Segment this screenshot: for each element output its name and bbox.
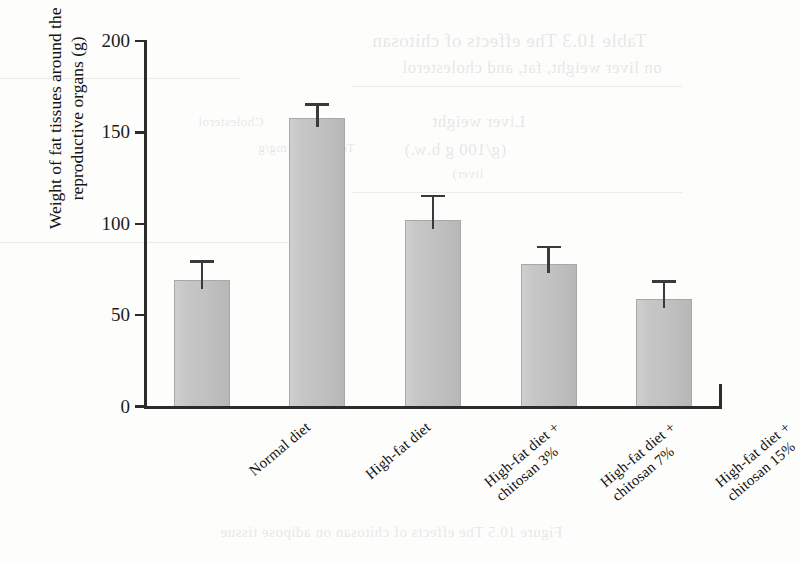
x-axis-label: Normal diet bbox=[245, 418, 314, 480]
error-bar-stem bbox=[432, 195, 435, 230]
y-tick-50 bbox=[135, 314, 145, 317]
x-axis-label: High-fat diet +chitosan 3% bbox=[481, 418, 575, 505]
bar bbox=[636, 299, 692, 407]
y-tick-label-0: 0 bbox=[84, 397, 130, 416]
x-axis-right-cap bbox=[719, 384, 722, 408]
bar bbox=[174, 280, 230, 406]
error-bar-stem bbox=[663, 280, 666, 307]
bar bbox=[521, 264, 577, 407]
y-tick-100 bbox=[135, 223, 145, 226]
y-tick-0 bbox=[135, 405, 145, 408]
y-axis-title-line-1: Weight of fat tissues around the bbox=[44, 0, 66, 278]
y-tick-150 bbox=[135, 131, 145, 134]
y-tick-label-50: 50 bbox=[84, 305, 130, 324]
error-bar-cap bbox=[537, 246, 561, 249]
bar bbox=[405, 220, 461, 406]
x-axis-label-line: Normal diet bbox=[245, 418, 314, 480]
y-tick-label-150: 150 bbox=[84, 122, 130, 141]
y-tick-label-200: 200 bbox=[84, 31, 130, 50]
bar bbox=[289, 118, 345, 407]
x-axis-label: High-fat diet +chitosan 7% bbox=[596, 418, 690, 505]
y-tick-label-100: 100 bbox=[84, 214, 130, 233]
y-tick-200 bbox=[135, 40, 145, 43]
error-bar-cap bbox=[421, 195, 445, 198]
x-axis-label: High-fat diet bbox=[362, 418, 435, 483]
x-axis-label: High-fat diet +chitosan 15% bbox=[712, 418, 800, 505]
error-bar-stem bbox=[316, 103, 319, 127]
y-axis-tick-labels: 050100150200 bbox=[78, 0, 130, 563]
error-bar-cap bbox=[190, 260, 214, 263]
error-bar-cap bbox=[652, 280, 676, 283]
error-bar-cap bbox=[305, 103, 329, 106]
x-axis-label-line: High-fat diet bbox=[362, 418, 435, 483]
error-bar-stem bbox=[201, 260, 204, 289]
error-bar-stem bbox=[547, 246, 550, 273]
